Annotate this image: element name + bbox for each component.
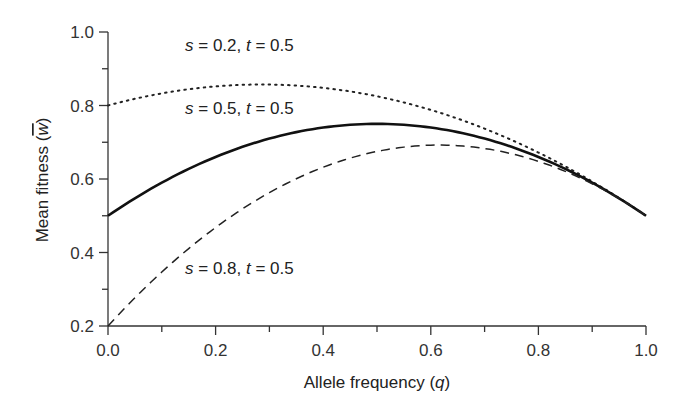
x-tick-label: 0.6 [419, 341, 443, 360]
x-tick-label: 0.8 [527, 341, 551, 360]
x-tick-label: 0.2 [204, 341, 228, 360]
annotation-s08: s = 0.8, t = 0.5 [185, 259, 294, 278]
x-tick-label: 1.0 [634, 341, 658, 360]
x-axis [108, 326, 646, 335]
x-axis-label: Allele frequency (q) [304, 373, 450, 392]
curve-s08 [108, 145, 646, 326]
curve-s05 [108, 124, 646, 216]
chart-svg: 0.20.40.60.81.0 0.00.20.40.60.81.0 s = 0… [0, 0, 682, 413]
y-tick-labels: 0.20.40.60.81.0 [70, 23, 94, 336]
y-tick-label: 0.2 [70, 317, 94, 336]
y-tick-label: 0.8 [70, 97, 94, 116]
x-tick-label: 0.4 [311, 341, 335, 360]
y-tick-label: 0.4 [70, 244, 94, 263]
y-tick-label: 1.0 [70, 23, 94, 42]
x-tick-labels: 0.00.20.40.60.81.0 [96, 341, 658, 360]
y-axis-label: Mean fitness (w) [33, 118, 52, 243]
annotation-s02: s = 0.2, t = 0.5 [185, 36, 294, 55]
y-tick-label: 0.6 [70, 170, 94, 189]
x-tick-label: 0.0 [96, 341, 120, 360]
y-axis [99, 32, 108, 326]
annotation-s05: s = 0.5, t = 0.5 [185, 99, 294, 118]
